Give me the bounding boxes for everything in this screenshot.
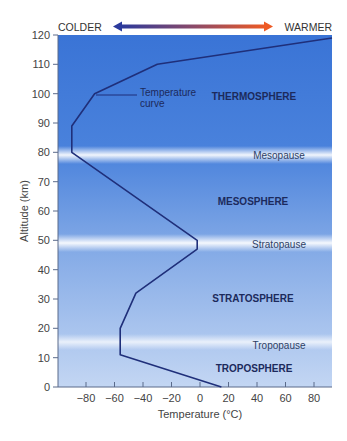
stratosphere-label: STRATOSPHERE xyxy=(212,293,294,304)
mesopause-label: Mesopause xyxy=(253,150,305,161)
mesosphere-label: MESOSPHERE xyxy=(218,196,289,207)
x-axis-title: Temperature (°C) xyxy=(158,408,242,420)
svg-text:10: 10 xyxy=(38,352,50,364)
svg-text:0: 0 xyxy=(44,381,50,393)
tropopause-label: Tropopause xyxy=(253,340,306,351)
svg-text:−60: −60 xyxy=(105,392,124,404)
warmer-label: WARMER xyxy=(285,21,333,33)
svg-text:60: 60 xyxy=(279,392,291,404)
svg-text:curve: curve xyxy=(140,98,165,109)
svg-text:Temperature: Temperature xyxy=(140,87,197,98)
svg-text:−40: −40 xyxy=(134,392,153,404)
svg-text:40: 40 xyxy=(251,392,263,404)
svg-text:100: 100 xyxy=(32,88,50,100)
thermosphere-label: THERMOSPHERE xyxy=(212,91,297,102)
svg-text:80: 80 xyxy=(308,392,320,404)
y-axis-title: Altitude (km) xyxy=(18,180,30,242)
double-arrow-icon xyxy=(113,22,273,32)
x-tick-labels: −80 −60 −40 −20 0 20 40 60 80 xyxy=(77,392,320,404)
svg-text:60: 60 xyxy=(38,205,50,217)
troposphere-label: TROPOSPHERE xyxy=(216,363,293,374)
y-axis xyxy=(53,35,58,387)
svg-text:50: 50 xyxy=(38,234,50,246)
stratopause-label: Stratopause xyxy=(252,239,306,250)
svg-text:30: 30 xyxy=(38,293,50,305)
svg-text:0: 0 xyxy=(197,392,203,404)
atmosphere-chart: COLDER WARMER 0 10 20 30 xyxy=(0,0,347,441)
colder-label: COLDER xyxy=(58,21,102,33)
svg-text:120: 120 xyxy=(32,29,50,41)
svg-text:20: 20 xyxy=(38,322,50,334)
svg-text:70: 70 xyxy=(38,176,50,188)
svg-text:110: 110 xyxy=(32,58,50,70)
svg-text:−20: −20 xyxy=(162,392,181,404)
temperature-direction-legend: COLDER WARMER xyxy=(58,21,332,33)
svg-text:90: 90 xyxy=(38,117,50,129)
svg-text:20: 20 xyxy=(222,392,234,404)
svg-text:40: 40 xyxy=(38,264,50,276)
svg-text:80: 80 xyxy=(38,146,50,158)
svg-text:−80: −80 xyxy=(77,392,96,404)
y-tick-labels: 0 10 20 30 40 50 60 70 80 90 100 110 120 xyxy=(32,29,50,393)
